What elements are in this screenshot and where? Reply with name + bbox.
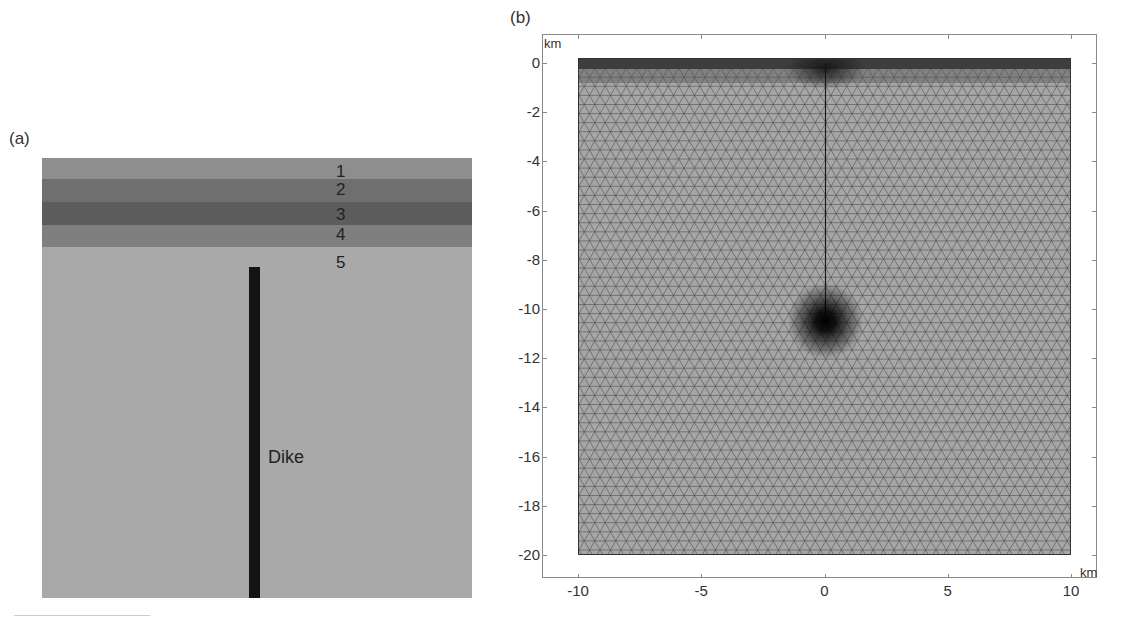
y-tick-mark-right xyxy=(1092,309,1096,310)
layer-number-5: 5 xyxy=(336,253,345,273)
y-tick-label: -8 xyxy=(500,251,540,268)
y-tick-mark xyxy=(543,457,547,458)
panel-b-label: (b) xyxy=(510,8,531,28)
panel-b-mesh-plot: (b) km km 0-2-4-6-8-10-12-14-16-18-20 -1… xyxy=(490,0,1122,617)
y-tick-mark-right xyxy=(1092,555,1096,556)
y-tick-label: -6 xyxy=(500,202,540,219)
y-tick-mark xyxy=(543,358,547,359)
y-tick-mark xyxy=(543,309,547,310)
layer-4 xyxy=(42,225,472,247)
x-tick-mark-top xyxy=(701,35,702,39)
y-tick-label: -20 xyxy=(500,546,540,563)
y-tick-mark xyxy=(543,161,547,162)
y-tick-mark-right xyxy=(1092,112,1096,113)
y-tick-label: -2 xyxy=(500,103,540,120)
y-axis-unit: km xyxy=(544,36,561,51)
triangular-mesh xyxy=(579,59,1071,555)
layer-2 xyxy=(42,179,472,202)
x-tick-label: 5 xyxy=(928,582,968,599)
y-tick-mark-right xyxy=(1092,358,1096,359)
x-tick-mark xyxy=(825,574,826,578)
y-tick-mark xyxy=(543,407,547,408)
x-tick-label: -5 xyxy=(681,582,721,599)
y-tick-mark-right xyxy=(1092,506,1096,507)
panel-a-model-sketch: (a) 1 2 3 4 5 Dike xyxy=(0,0,490,617)
divider xyxy=(14,615,150,616)
mesh-domain xyxy=(578,58,1071,555)
y-tick-label: -10 xyxy=(500,300,540,317)
y-tick-mark-right xyxy=(1092,63,1096,64)
x-tick-label: 0 xyxy=(805,582,845,599)
layer-3 xyxy=(42,202,472,225)
y-tick-mark-right xyxy=(1092,161,1096,162)
layer-number-4: 4 xyxy=(336,225,345,245)
y-tick-mark xyxy=(543,555,547,556)
y-tick-mark-right xyxy=(1092,211,1096,212)
x-tick-mark xyxy=(948,574,949,578)
y-tick-label: -12 xyxy=(500,349,540,366)
panel-a-label: (a) xyxy=(9,129,30,149)
y-tick-label: -16 xyxy=(500,448,540,465)
x-tick-mark xyxy=(578,574,579,578)
layer-number-1: 1 xyxy=(336,162,345,182)
x-tick-label: -10 xyxy=(558,582,598,599)
y-tick-label: -14 xyxy=(500,398,540,415)
x-tick-mark-top xyxy=(825,35,826,39)
y-tick-mark xyxy=(543,63,547,64)
y-tick-mark xyxy=(543,112,547,113)
y-tick-label: 0 xyxy=(500,54,540,71)
y-tick-mark xyxy=(543,506,547,507)
layer-number-2: 2 xyxy=(336,180,345,200)
y-tick-label: -18 xyxy=(500,497,540,514)
x-tick-mark xyxy=(1071,574,1072,578)
y-tick-mark-right xyxy=(1092,407,1096,408)
y-tick-mark xyxy=(543,260,547,261)
layer-1 xyxy=(42,158,472,179)
x-tick-label: 10 xyxy=(1051,582,1091,599)
y-tick-mark xyxy=(543,211,547,212)
y-tick-label: -4 xyxy=(500,152,540,169)
layered-model: 1 2 3 4 5 Dike xyxy=(42,158,472,598)
x-tick-mark-top xyxy=(578,35,579,39)
dike-label: Dike xyxy=(268,447,304,468)
x-axis-unit: km xyxy=(1080,565,1097,580)
layer-number-3: 3 xyxy=(336,205,345,225)
x-tick-mark xyxy=(701,574,702,578)
dike xyxy=(249,267,260,598)
x-tick-mark-top xyxy=(948,35,949,39)
x-tick-mark-top xyxy=(1071,35,1072,39)
y-tick-mark-right xyxy=(1092,457,1096,458)
y-tick-mark-right xyxy=(1092,260,1096,261)
